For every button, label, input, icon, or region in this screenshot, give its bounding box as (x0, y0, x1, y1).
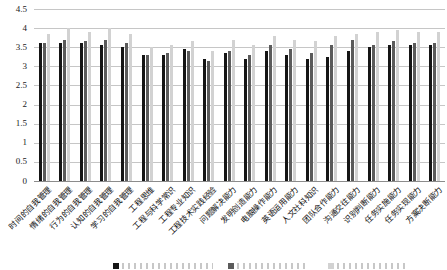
y-axis-tick-label: 2 (0, 99, 27, 110)
bar (80, 43, 83, 181)
gridline (34, 124, 445, 125)
bar (207, 61, 210, 181)
legend-item-clipped (228, 263, 308, 270)
bar (347, 51, 350, 181)
bar (326, 57, 329, 181)
legend-swatch (228, 263, 234, 269)
gridline (34, 143, 445, 144)
legend-item-clipped (113, 263, 213, 270)
bar (125, 43, 128, 181)
bar (67, 28, 70, 181)
bar (39, 43, 42, 181)
legend-clipped (0, 263, 447, 270)
bar (372, 45, 375, 181)
y-axis-tick-label: 3 (0, 61, 27, 72)
bar (330, 45, 333, 181)
bar (150, 47, 153, 181)
bar (244, 59, 247, 181)
bar (293, 40, 296, 181)
bar (47, 34, 50, 181)
bar (269, 45, 272, 181)
gridline (34, 105, 445, 106)
gridline (34, 47, 445, 48)
bar (162, 55, 165, 181)
bar (376, 32, 379, 181)
legend-label-clipped (237, 263, 308, 269)
bar (433, 43, 436, 181)
y-axis-tick-label: 3.5 (0, 42, 27, 53)
bar (248, 55, 251, 181)
bar (203, 59, 206, 181)
bar (413, 43, 416, 181)
bar (146, 55, 149, 181)
bar (183, 49, 186, 181)
bar (63, 40, 66, 181)
bar (368, 47, 371, 181)
bar (43, 43, 46, 181)
bar (170, 45, 173, 181)
bar (306, 59, 309, 181)
bar (252, 45, 255, 181)
bar (351, 40, 354, 181)
grouped-bar-chart: 00.511.522.533.544.5 时间的自我管理情绪的自我管理行为的自我… (0, 0, 447, 270)
bar (429, 45, 432, 181)
gridline (34, 162, 445, 163)
gridline (34, 85, 445, 86)
y-axis-tick-label: 0.5 (0, 156, 27, 167)
bar (396, 30, 399, 181)
y-axis-tick-label: 1.5 (0, 118, 27, 129)
gridline (34, 66, 445, 67)
bar (100, 45, 103, 181)
legend-swatch (113, 263, 119, 269)
bar (232, 40, 235, 181)
y-axis-tick-label: 4.5 (0, 4, 27, 15)
bar (310, 53, 313, 181)
bar (289, 49, 292, 181)
bar (228, 51, 231, 181)
legend-label-clipped (122, 263, 213, 269)
gridline (34, 28, 445, 29)
bar (285, 55, 288, 181)
y-axis-tick-label: 1 (0, 137, 27, 148)
bar (211, 51, 214, 181)
bar (59, 43, 62, 181)
x-axis-line (34, 181, 445, 182)
y-axis-tick-label: 0 (0, 176, 27, 187)
bar (166, 53, 169, 181)
bar (314, 41, 317, 181)
bar (355, 34, 358, 181)
bar (437, 32, 440, 181)
bar (388, 45, 391, 181)
legend-label-clipped (337, 263, 408, 269)
legend-item-clipped (328, 263, 408, 270)
bar (191, 41, 194, 181)
legend-swatch (328, 263, 334, 269)
y-axis-tick-label: 2.5 (0, 80, 27, 91)
bar (108, 28, 111, 181)
bar (417, 32, 420, 181)
bar (273, 36, 276, 181)
y-axis-tick-label: 4 (0, 23, 27, 34)
bar (224, 53, 227, 181)
bar (121, 47, 124, 181)
bar (88, 32, 91, 181)
bar (104, 40, 107, 181)
bar (142, 55, 145, 181)
bar (265, 51, 268, 181)
bar (84, 41, 87, 181)
bar (409, 45, 412, 181)
gridline (34, 9, 445, 10)
bar (129, 34, 132, 181)
bar (334, 36, 337, 181)
bar (187, 51, 190, 181)
bar (392, 41, 395, 181)
